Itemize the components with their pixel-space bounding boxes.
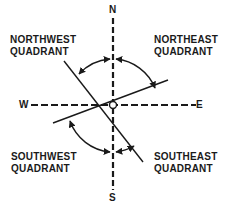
southwest-arc bbox=[70, 121, 110, 152]
northeast-line1: NORTHEAST bbox=[154, 34, 218, 46]
southwest-line1: SOUTHWEST bbox=[11, 151, 77, 163]
northwest-line2: QUADRANT bbox=[10, 46, 76, 58]
compass-quadrant-diagram: N S W E NORTHWEST QUADRANT NORTHEAST QUA… bbox=[0, 0, 228, 208]
north-label: N bbox=[109, 5, 116, 15]
northeast-line2: QUADRANT bbox=[154, 46, 218, 58]
south-label: S bbox=[109, 193, 116, 203]
southeast-line2: QUADRANT bbox=[154, 163, 217, 175]
center-point bbox=[110, 102, 117, 109]
southwest-quadrant-label: SOUTHWEST QUADRANT bbox=[11, 151, 77, 175]
southeast-quadrant-label: SOUTHEAST QUADRANT bbox=[154, 151, 217, 175]
east-label: E bbox=[196, 100, 203, 110]
northeast-southwest-line bbox=[53, 80, 168, 123]
northeast-quadrant-label: NORTHEAST QUADRANT bbox=[154, 34, 218, 58]
compass-graphic bbox=[0, 0, 228, 208]
northwest-quadrant-label: NORTHWEST QUADRANT bbox=[10, 34, 76, 58]
southwest-line2: QUADRANT bbox=[11, 163, 77, 175]
southeast-arc bbox=[116, 146, 134, 152]
northwest-arc bbox=[79, 59, 110, 74]
northeast-arc bbox=[116, 59, 155, 88]
west-label: W bbox=[19, 100, 28, 110]
southeast-line1: SOUTHEAST bbox=[154, 151, 217, 163]
northwest-line1: NORTHWEST bbox=[10, 34, 76, 46]
